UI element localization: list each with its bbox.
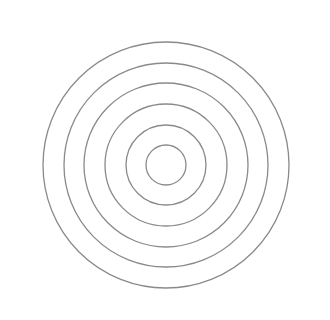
concentric-circles-diagram	[0, 0, 330, 320]
circle-ring-2	[126, 125, 206, 205]
circle-ring-6	[43, 42, 289, 288]
circle-ring-5	[64, 63, 268, 267]
circle-ring-4	[84, 83, 248, 247]
circle-ring-1	[146, 145, 186, 185]
diagram-canvas	[0, 0, 330, 320]
circle-ring-3	[105, 104, 227, 226]
